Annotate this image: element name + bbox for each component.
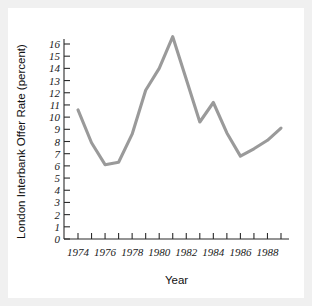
line-chart: 0123456789101112131415161974197619781980…	[8, 8, 304, 298]
y-tick-label: 9	[55, 123, 61, 135]
x-tick-label: 1978	[121, 246, 144, 258]
x-axis-title: Year	[165, 274, 188, 286]
y-axis-title: London Interbank Offer Rate (percent)	[15, 44, 27, 239]
y-tick-label: 15	[49, 50, 61, 62]
y-tick-label: 1	[55, 221, 61, 233]
chart-card: 0123456789101112131415161974197619781980…	[8, 8, 304, 298]
y-tick-label: 7	[55, 148, 61, 160]
data-series-line	[78, 37, 281, 165]
y-tick-label: 8	[55, 136, 61, 148]
y-tick-label: 4	[55, 184, 61, 196]
y-tick-label: 0	[55, 233, 61, 245]
x-tick-label: 1984	[202, 246, 225, 258]
x-tick-label: 1986	[229, 246, 252, 258]
y-tick-label: 10	[49, 111, 61, 123]
y-tick-label: 3	[54, 196, 61, 208]
y-tick-label: 11	[50, 99, 60, 111]
x-tick-label: 1974	[67, 246, 90, 258]
y-tick-label: 13	[49, 75, 61, 87]
x-tick-label: 1988	[256, 246, 279, 258]
y-tick-label: 2	[55, 209, 61, 221]
y-tick-label: 16	[49, 38, 61, 50]
y-tick-label: 6	[55, 160, 61, 172]
y-tick-label: 12	[49, 87, 61, 99]
x-tick-label: 1976	[94, 246, 117, 258]
y-tick-label: 14	[49, 62, 61, 74]
x-tick-label: 1982	[175, 246, 198, 258]
x-tick-label: 1980	[148, 246, 171, 258]
y-tick-label: 5	[55, 172, 61, 184]
